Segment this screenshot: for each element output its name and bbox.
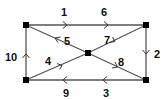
nodes	[23, 22, 149, 83]
edge-label-10: 10	[5, 51, 17, 63]
edge-label-2: 2	[154, 48, 160, 60]
edge-label-9: 9	[63, 87, 69, 99]
edge-label-6: 6	[101, 6, 107, 18]
edge-5-center-to-top-left	[26, 25, 88, 53]
node-bottom-left	[23, 77, 29, 83]
edge-4-bottom-left-to-center	[26, 53, 88, 80]
edge-label-4: 4	[45, 55, 52, 67]
edge-label-8: 8	[118, 56, 124, 68]
edge-label-1: 1	[61, 6, 67, 18]
edge-labels: 1 6 2 3 9 10 5 7 4 8	[5, 6, 160, 99]
edge-label-7: 7	[104, 34, 110, 46]
node-bottom-right	[143, 77, 149, 83]
node-center	[85, 50, 91, 56]
edge-7-top-right-to-center	[88, 25, 146, 53]
directed-graph: 1 6 2 3 9 10 5 7 4 8	[0, 0, 165, 100]
node-top-right	[143, 22, 149, 28]
edge-label-3: 3	[103, 87, 109, 99]
edge-label-5: 5	[64, 35, 70, 47]
node-top-left	[23, 22, 29, 28]
